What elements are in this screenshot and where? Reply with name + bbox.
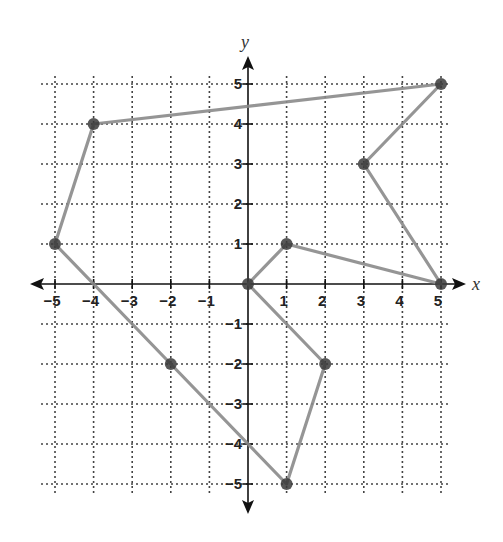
coordinate-plane: −5−4−3−2−11234554321−1−2−3−4−5 x y bbox=[0, 0, 503, 542]
y-tick-label: 2 bbox=[234, 195, 242, 212]
x-tick-label: 2 bbox=[318, 292, 326, 309]
x-tick-label: −3 bbox=[121, 292, 138, 309]
x-tick-label: 5 bbox=[434, 292, 442, 309]
plotted-point bbox=[435, 278, 447, 290]
y-tick-label: 1 bbox=[234, 235, 242, 252]
y-tick-label: −2 bbox=[225, 355, 242, 372]
x-tick-label: 1 bbox=[279, 292, 287, 309]
x-tick-label: −5 bbox=[43, 292, 60, 309]
x-tick-label: −4 bbox=[82, 292, 100, 309]
y-tick-label: −1 bbox=[225, 315, 242, 332]
y-axis-label: y bbox=[239, 32, 249, 52]
plotted-point bbox=[281, 478, 293, 490]
plotted-point bbox=[358, 158, 370, 170]
plotted-point bbox=[88, 118, 100, 130]
x-tick-label: 4 bbox=[395, 292, 404, 309]
x-axis-label: x bbox=[471, 274, 480, 294]
x-tick-label: 3 bbox=[357, 292, 365, 309]
x-tick-label: −2 bbox=[159, 292, 176, 309]
plotted-point bbox=[319, 358, 331, 370]
y-tick-label: 5 bbox=[234, 75, 242, 92]
plotted-point bbox=[435, 78, 447, 90]
y-tick-label: 3 bbox=[234, 155, 242, 172]
plotted-point bbox=[281, 238, 293, 250]
y-tick-label: −3 bbox=[225, 395, 242, 412]
plotted-point bbox=[165, 358, 177, 370]
y-tick-label: 4 bbox=[234, 115, 243, 132]
plotted-point bbox=[242, 278, 254, 290]
plotted-point bbox=[49, 238, 61, 250]
y-tick-label: −5 bbox=[225, 475, 242, 492]
x-tick-label: −1 bbox=[198, 292, 215, 309]
